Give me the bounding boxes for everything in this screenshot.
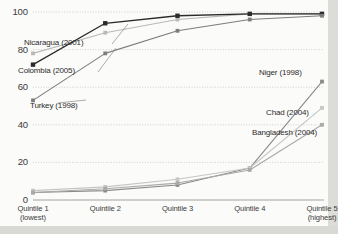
series-line xyxy=(33,16,322,101)
series-label-niger: Niger (1998) xyxy=(259,68,302,77)
data-point-marker xyxy=(248,12,252,16)
data-point-marker xyxy=(176,29,180,33)
x-tick-label-quintile-4: Quintile 4 xyxy=(215,204,285,213)
x-tick-label-sub: (lowest) xyxy=(0,213,68,222)
data-point-marker xyxy=(103,51,107,55)
data-point-marker xyxy=(320,106,324,110)
data-point-marker xyxy=(103,31,107,35)
data-point-marker xyxy=(176,181,180,185)
data-point-marker xyxy=(31,51,35,55)
data-point-marker xyxy=(248,168,252,172)
x-tick-label-sub: (highest) xyxy=(287,213,338,222)
data-point-marker xyxy=(248,18,252,22)
y-tick-label: 20 xyxy=(2,156,28,167)
series-line xyxy=(33,82,322,193)
x-tick-label-main: Quintile 2 xyxy=(90,204,121,213)
y-tick-label: 40 xyxy=(2,119,28,130)
data-point-marker xyxy=(320,80,324,84)
x-tick-label-quintile-5: Quintile 5 (highest) xyxy=(287,204,338,222)
x-tick-label-main: Quintile 4 xyxy=(234,204,265,213)
x-tick-label-main: Quintile 5 xyxy=(306,204,337,213)
x-tick-label-main: Quintile 1 xyxy=(17,204,48,213)
x-tick-label-quintile-2: Quintile 2 xyxy=(70,204,140,213)
annotation-leader-line xyxy=(112,24,128,44)
plot-area xyxy=(0,0,338,234)
y-tick-label: 60 xyxy=(2,81,28,92)
series-label-colombia: Colombia (2005) xyxy=(18,66,75,75)
data-point-marker xyxy=(103,21,107,25)
data-point-marker xyxy=(320,123,324,127)
series-label-chad: Chad (2004) xyxy=(266,108,309,117)
data-point-marker xyxy=(320,14,324,18)
series-label-nicaragua: Nicaragua (2001) xyxy=(24,38,83,47)
data-point-marker xyxy=(176,177,180,181)
data-point-marker xyxy=(31,191,35,195)
series-label-turkey: Turkey (1998) xyxy=(30,101,78,110)
x-tick-label-quintile-3: Quintile 3 xyxy=(143,204,213,213)
x-tick-label-main: Quintile 3 xyxy=(162,204,193,213)
x-tick-label-quintile-1: Quintile 1 (lowest) xyxy=(0,204,68,222)
data-point-marker xyxy=(176,18,180,22)
chart-container: 100 80 60 40 20 0 Quintile 1 (lowest) Qu… xyxy=(0,0,338,234)
data-point-marker xyxy=(175,14,179,18)
data-point-marker xyxy=(103,187,107,191)
series-label-bangladesh: Bangladesh (2004) xyxy=(252,128,317,137)
y-tick-label: 100 xyxy=(2,6,28,17)
